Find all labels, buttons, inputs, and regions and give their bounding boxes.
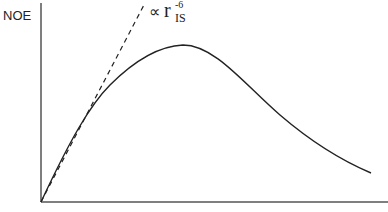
annot-base: r — [164, 0, 171, 21]
proportional-symbol: ∝ — [149, 3, 160, 20]
annot-superscript: -6 — [175, 0, 183, 10]
proportionality-annotation: ∝ r -6 IS — [149, 0, 171, 22]
annot-subscript: IS — [175, 11, 186, 26]
noe-curve — [41, 45, 371, 202]
plot — [0, 0, 388, 212]
asymptote-dashed-line — [41, 3, 145, 202]
